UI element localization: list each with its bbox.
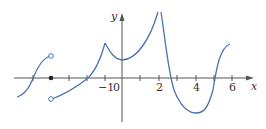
open-circle-upper: [49, 54, 54, 59]
open-circle-lower: [49, 97, 54, 102]
tick-label-two: 2: [156, 81, 163, 94]
tick-label-neg1: −1: [98, 81, 114, 94]
tick-label-zero: 0: [113, 81, 120, 94]
curve-left-branch: [17, 56, 50, 97]
curve-right-branch: [161, 12, 230, 113]
axes: [14, 13, 254, 122]
tick-label-six: 6: [229, 81, 236, 94]
y-axis-arrow-icon: [120, 13, 125, 21]
y-axis-label: y: [110, 10, 118, 23]
function-graph: −1 0 2 4 6 x y: [0, 0, 266, 129]
x-axis-label: x: [251, 80, 258, 93]
tick-label-four: 4: [193, 81, 200, 94]
filled-dot: [49, 76, 54, 81]
